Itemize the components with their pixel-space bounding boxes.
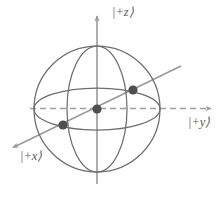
x-axis-point-front [58,120,67,129]
bloch-sphere-diagram [0,0,222,202]
x-axis-label: |+x⟩ [20,150,42,163]
bloch-sphere-figure: |+z⟩ |+y⟩ |+x⟩ [0,0,222,202]
z-axis-label: |+z⟩ [112,6,134,19]
x-axis-point-back [128,85,137,94]
origin-point [92,104,101,113]
y-axis-label: |+y⟩ [188,116,210,129]
